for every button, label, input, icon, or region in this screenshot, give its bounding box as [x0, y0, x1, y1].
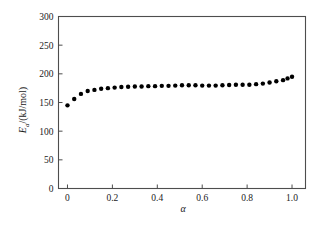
- x-tick-label: 1.0: [286, 193, 298, 203]
- data-point: [193, 83, 197, 87]
- data-point: [207, 83, 211, 87]
- y-axis-units: /(kJ/mol): [17, 87, 29, 124]
- x-tick-label: 0.2: [106, 193, 118, 203]
- data-point: [92, 88, 96, 92]
- y-tick-label: 150: [39, 98, 54, 108]
- data-point: [119, 85, 123, 89]
- data-point: [281, 78, 285, 82]
- data-point: [160, 84, 164, 88]
- x-axis-title-text: α: [180, 203, 186, 214]
- data-point: [166, 84, 170, 88]
- data-point: [153, 84, 157, 88]
- y-tick-label: 0: [49, 184, 54, 194]
- x-tick-label: 0.8: [241, 193, 253, 203]
- y-tick-label: 250: [39, 41, 54, 51]
- data-point: [180, 83, 184, 87]
- data-point: [261, 81, 265, 85]
- data-point: [267, 80, 271, 84]
- data-point: [200, 83, 204, 87]
- data-point: [173, 83, 177, 87]
- y-tick-label: 50: [44, 155, 54, 165]
- data-point: [234, 83, 238, 87]
- data-point: [220, 83, 224, 87]
- data-point: [112, 85, 116, 89]
- y-axis-symbol: E: [17, 127, 28, 134]
- data-point: [65, 103, 69, 107]
- data-point: [99, 87, 103, 91]
- x-tick-label: 0.6: [196, 193, 208, 203]
- data-point: [240, 83, 244, 87]
- y-tick-label: 200: [39, 69, 54, 79]
- y-tick-label: 100: [39, 127, 54, 137]
- data-point: [133, 84, 137, 88]
- data-point: [126, 85, 130, 89]
- data-point: [146, 84, 150, 88]
- activation-energy-scatter-chart: 050100150200250300 00.20.40.60.81.0 Ea/(…: [0, 0, 329, 228]
- y-tick-label: 300: [39, 12, 54, 22]
- data-point: [213, 83, 217, 87]
- x-axis-title: α: [180, 203, 186, 214]
- x-tick-label: 0: [65, 193, 70, 203]
- x-tick-label: 0.4: [151, 193, 163, 203]
- data-point: [254, 82, 258, 86]
- data-point: [85, 89, 89, 93]
- data-point: [290, 75, 294, 79]
- data-point: [106, 86, 110, 90]
- data-point: [139, 84, 143, 88]
- data-point: [274, 79, 278, 83]
- data-point: [227, 83, 231, 87]
- data-point: [187, 83, 191, 87]
- figure-container: 050100150200250300 00.20.40.60.81.0 Ea/(…: [0, 0, 329, 228]
- data-point: [285, 76, 289, 80]
- data-point: [72, 97, 76, 101]
- data-point: [79, 92, 83, 96]
- data-point: [247, 83, 251, 87]
